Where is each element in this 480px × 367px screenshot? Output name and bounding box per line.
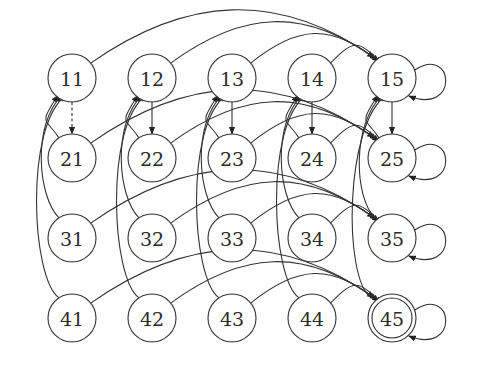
node-label: 43 <box>220 308 244 330</box>
state-node-33: 33 <box>208 214 256 262</box>
node-label: 15 <box>380 68 404 90</box>
state-node-42: 42 <box>128 294 176 342</box>
state-node-45: 45 <box>368 294 416 342</box>
state-node-22: 22 <box>128 134 176 182</box>
node-label: 24 <box>300 148 324 170</box>
state-node-15: 15 <box>368 54 416 102</box>
state-node-24: 24 <box>288 134 336 182</box>
state-node-14: 14 <box>288 54 336 102</box>
state-node-44: 44 <box>288 294 336 342</box>
node-label: 31 <box>60 228 84 250</box>
state-node-12: 12 <box>128 54 176 102</box>
state-graph: 1112131415212223242531323334354142434445 <box>0 0 480 367</box>
node-label: 22 <box>140 148 164 170</box>
node-label: 12 <box>140 68 164 90</box>
node-label: 34 <box>300 228 324 250</box>
node-label: 25 <box>380 148 404 170</box>
node-label: 41 <box>60 308 84 330</box>
node-label: 14 <box>300 68 324 90</box>
state-node-11: 11 <box>48 54 96 102</box>
node-label: 11 <box>60 68 84 90</box>
node-label: 23 <box>220 148 244 170</box>
edge-12-to-15 <box>170 22 377 64</box>
edge-42-to-12 <box>117 95 146 297</box>
nodes: 1112131415212223242531323334354142434445 <box>48 54 416 342</box>
node-label: 33 <box>220 228 244 250</box>
node-label: 42 <box>140 308 164 330</box>
edge-14-to-15 <box>330 45 382 63</box>
state-node-13: 13 <box>208 54 256 102</box>
edge-34-to-35 <box>330 205 382 223</box>
edge-32-to-35 <box>170 182 377 224</box>
state-node-32: 32 <box>128 214 176 262</box>
state-node-23: 23 <box>208 134 256 182</box>
state-node-41: 41 <box>48 294 96 342</box>
state-node-35: 35 <box>368 214 416 262</box>
edge-44-to-45 <box>330 285 382 303</box>
edge-42-to-45 <box>170 262 377 304</box>
state-node-43: 43 <box>208 294 256 342</box>
state-node-34: 34 <box>288 214 336 262</box>
node-label: 21 <box>60 148 84 170</box>
node-label: 45 <box>380 308 404 330</box>
node-label: 35 <box>380 228 404 250</box>
edge-24-to-25 <box>330 125 382 143</box>
edge-43-to-13 <box>197 95 226 297</box>
state-node-21: 21 <box>48 134 96 182</box>
node-label: 32 <box>140 228 164 250</box>
node-label: 44 <box>300 308 324 330</box>
edge-44-to-14 <box>277 95 306 297</box>
state-node-25: 25 <box>368 134 416 182</box>
edge-41-to-11 <box>37 95 66 297</box>
state-node-31: 31 <box>48 214 96 262</box>
edge-22-to-25 <box>170 102 377 144</box>
node-label: 13 <box>220 68 244 90</box>
